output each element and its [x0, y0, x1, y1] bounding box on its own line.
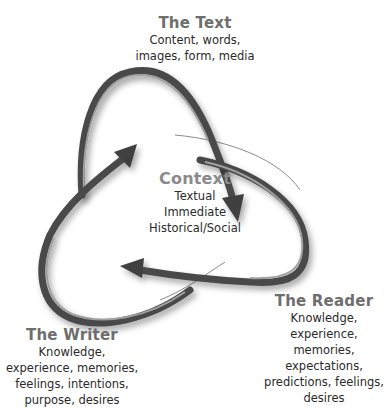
node-title: The Writer: [2, 326, 142, 344]
node-title: Context: [130, 169, 260, 188]
node-line: Knowledge,: [258, 310, 388, 326]
node-line: Knowledge,: [2, 344, 142, 360]
node-title: The Reader: [258, 292, 388, 310]
node-line: experience, memories,: [258, 326, 388, 358]
arrowhead-icon: [120, 258, 144, 278]
node-the-reader: The Reader Knowledge, experience, memori…: [258, 292, 388, 406]
node-line: expectations,: [258, 358, 388, 374]
node-line: desires: [258, 390, 388, 406]
node-line: feelings, intentions,: [2, 376, 142, 392]
node-the-text: The Text Content, words, images, form, m…: [110, 14, 280, 64]
node-line: images, form, media: [110, 48, 280, 64]
node-line: purpose, desires: [2, 392, 142, 408]
node-line: Textual: [130, 188, 260, 204]
node-line: predictions, feelings,: [258, 374, 388, 390]
node-line: Historical/Social: [130, 220, 260, 236]
node-title: The Text: [110, 14, 280, 32]
node-the-writer: The Writer Knowledge, experience, memori…: [2, 326, 142, 408]
node-context: Context Textual Immediate Historical/Soc…: [130, 169, 260, 236]
node-line: Immediate: [130, 204, 260, 220]
node-line: experience, memories,: [2, 360, 142, 376]
node-line: Content, words,: [110, 32, 280, 48]
